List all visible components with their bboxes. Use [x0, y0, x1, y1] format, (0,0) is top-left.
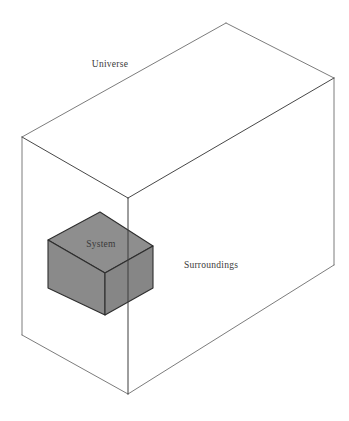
label-universe: Universe — [92, 59, 128, 69]
diagram-background — [0, 0, 349, 421]
figure-canvas: Universe System Surroundings — [0, 0, 349, 421]
label-system: System — [86, 239, 116, 249]
thermodynamics-diagram: Universe System Surroundings — [0, 0, 349, 421]
label-surroundings: Surroundings — [184, 260, 238, 270]
